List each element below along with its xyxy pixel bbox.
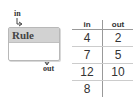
output-label: out xyxy=(43,64,54,73)
table-row: 4 2 xyxy=(72,30,133,47)
table-row: 12 10 xyxy=(72,64,133,81)
rule-box: Rule xyxy=(8,27,60,61)
cell-in: 12 xyxy=(72,64,103,81)
header-out: out xyxy=(103,20,134,30)
cell-out: 2 xyxy=(103,30,134,47)
cell-out: 10 xyxy=(103,64,134,81)
rule-box-header: Rule xyxy=(9,28,59,43)
cell-in: 4 xyxy=(72,30,103,47)
table-row: 8 xyxy=(72,81,133,98)
cell-in: 7 xyxy=(72,47,103,64)
table-header-row: in out xyxy=(72,20,133,30)
in-out-table: in out 4 2 7 5 12 10 8 xyxy=(72,20,133,97)
function-machine: in Rule out xyxy=(0,0,70,103)
cell-out-blank xyxy=(103,81,134,98)
cell-out: 5 xyxy=(103,47,134,64)
table-row: 7 5 xyxy=(72,47,133,64)
rule-label: Rule xyxy=(12,29,34,41)
cell-in: 8 xyxy=(72,81,103,98)
header-in: in xyxy=(72,20,103,30)
